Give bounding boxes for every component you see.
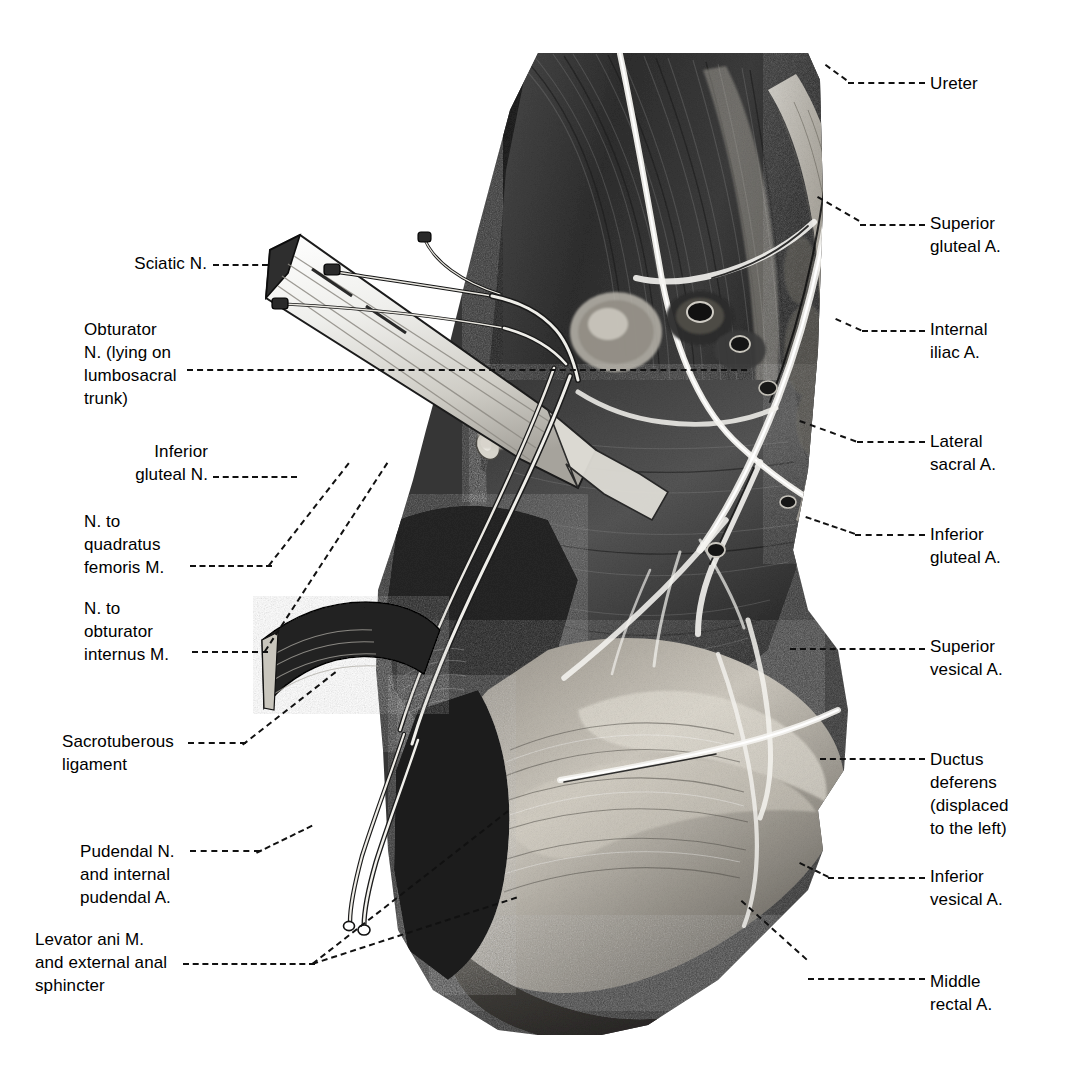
- leader-ureter: [848, 82, 925, 84]
- label-superior-vesical-artery: Superior vesical A.: [930, 635, 1003, 681]
- label-sacrotuberous-ligament: Sacrotuberous ligament: [62, 730, 212, 776]
- label-middle-rectal-artery: Middle rectal A.: [930, 970, 992, 1016]
- label-levator-ani: Levator ani M. and external anal sphinct…: [35, 928, 220, 997]
- label-ureter: Ureter: [930, 72, 978, 95]
- leader-obturator-nerve: [187, 369, 747, 371]
- label-inferior-vesical-artery: Inferior vesical A.: [930, 865, 1003, 911]
- leader-superior-vesical-artery: [790, 648, 925, 650]
- label-ductus-deferens: Ductus deferens (displaced to the left): [930, 748, 1009, 840]
- anatomy-figure: Sciatic N. Obturator N. (lying on lumbos…: [0, 0, 1066, 1080]
- leader-inferior-gluteal-nerve: [213, 476, 297, 478]
- leader-sciatic-nerve: [213, 264, 268, 266]
- leader-lateral-sacral-artery: [857, 441, 925, 443]
- label-superior-gluteal-artery: Superior gluteal A.: [930, 212, 1001, 258]
- label-inferior-gluteal-nerve: Inferior gluteal N.: [90, 440, 208, 486]
- dissection-photograph: [248, 50, 868, 1035]
- label-internal-iliac-artery: Internal iliac A.: [930, 318, 988, 364]
- label-pudendal-nerve: Pudendal N. and internal pudendal A.: [80, 840, 212, 909]
- label-obturator-nerve: Obturator N. (lying on lumbosacral trunk…: [84, 318, 214, 410]
- dissection-photograph-image: [248, 50, 868, 1035]
- label-lateral-sacral-artery: Lateral sacral A.: [930, 430, 996, 476]
- leader-inferior-vesical-artery: [828, 877, 925, 879]
- label-nerve-to-obturator-internus: N. to obturator internus M.: [84, 597, 214, 666]
- leader-inferior-gluteal-artery: [855, 534, 925, 536]
- label-sciatic-nerve: Sciatic N.: [95, 252, 207, 275]
- leader-ductus-deferens: [820, 758, 925, 760]
- leader-internal-iliac-artery: [862, 330, 925, 332]
- label-inferior-gluteal-artery: Inferior gluteal A.: [930, 523, 1001, 569]
- label-nerve-to-quadratus-femoris: N. to quadratus femoris M.: [84, 510, 209, 579]
- leader-superior-gluteal-artery: [860, 224, 925, 226]
- leader-middle-rectal-artery: [808, 978, 925, 980]
